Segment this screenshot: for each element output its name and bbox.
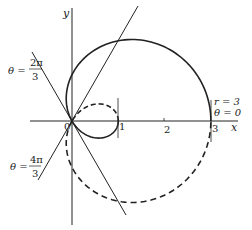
theta-4pi3-numerator: 4π bbox=[30, 154, 43, 165]
theta-4pi3-prefix: θ = bbox=[10, 161, 28, 172]
curve-dashed-inner-loop bbox=[72, 104, 118, 121]
y-axis-label: y bbox=[62, 7, 70, 20]
theta-2pi3-prefix: θ = bbox=[8, 65, 26, 76]
x-axis-label: x bbox=[231, 121, 238, 134]
theta-4pi3-denominator: 3 bbox=[32, 168, 38, 179]
origin-label: 0 bbox=[64, 121, 70, 132]
curve-solid-outer bbox=[66, 40, 211, 121]
tick-label-1: 1 bbox=[119, 121, 125, 132]
theta-2pi3-numerator: 2π bbox=[30, 57, 43, 68]
r3-label: r = 3 bbox=[214, 96, 240, 107]
curve-solid-inner-loop bbox=[72, 121, 118, 138]
limacon-diagram: y x 0 1 2 3 r = 3 θ = 0 θ = 2π 3 θ = 4π … bbox=[0, 0, 252, 230]
theta-2pi3-denominator: 3 bbox=[32, 71, 38, 82]
curve-dashed-outer bbox=[66, 121, 211, 202]
theta0-label: θ = 0 bbox=[214, 107, 242, 118]
tick-label-3: 3 bbox=[212, 123, 218, 134]
ray-4pi3 bbox=[38, 6, 138, 180]
tick-label-2: 2 bbox=[164, 124, 170, 135]
